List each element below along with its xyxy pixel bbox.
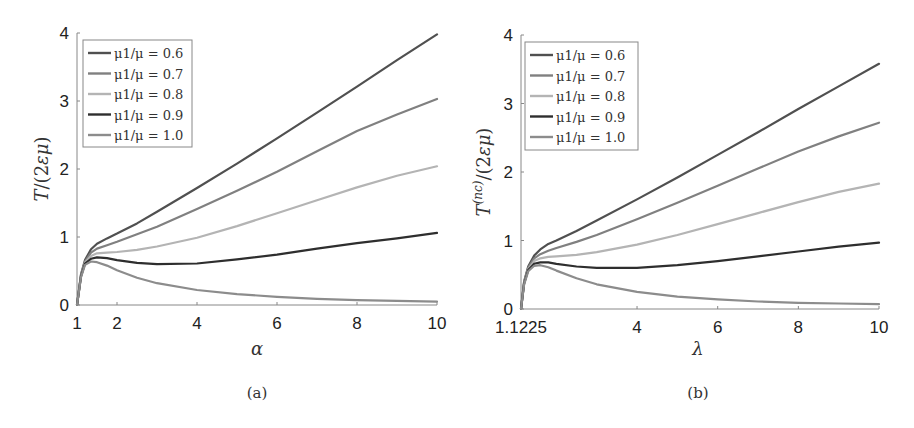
legend: μ1/μ = 0.6μ1/μ = 0.7μ1/μ = 0.8μ1/μ = 0.9… <box>525 42 638 150</box>
panel-b-chart: 012341.122546810 μ1/μ = 0.6μ1/μ = 0.7μ1/… <box>471 26 888 402</box>
panel-caption: (b) <box>687 384 708 402</box>
y-axis-label: T(nc)/(2εμ) <box>471 128 494 217</box>
y-tick-label: 2 <box>504 163 513 182</box>
x-tick-label: 6 <box>272 314 281 333</box>
legend-label: μ1/μ = 0.9 <box>556 110 625 125</box>
x-tick-label: 10 <box>428 314 447 333</box>
x-axis-label: α <box>251 338 263 359</box>
curve-series <box>521 265 879 309</box>
legend-label: μ1/μ = 0.8 <box>114 87 183 102</box>
x-tick-label: 4 <box>192 314 201 333</box>
curve-series <box>521 184 879 309</box>
legend-label: μ1/μ = 1.0 <box>556 130 625 145</box>
y-tick-label: 0 <box>504 300 513 319</box>
x-tick-label: 4 <box>632 318 641 337</box>
curve-series <box>521 123 879 309</box>
svg-text:T(nc)/(2εμ): T(nc)/(2εμ) <box>471 128 494 217</box>
panel-a-chart: 012341246810 μ1/μ = 0.6μ1/μ = 0.7μ1/μ = … <box>31 24 446 402</box>
x-tick-label: 8 <box>794 318 803 337</box>
x-tick-label: 1 <box>72 314 81 333</box>
x-tick-label: 2 <box>112 314 121 333</box>
y-tick-label: 4 <box>60 24 69 43</box>
legend-label: μ1/μ = 0.9 <box>114 108 183 123</box>
y-tick-label: 0 <box>60 296 69 315</box>
legend-label: μ1/μ = 0.7 <box>114 67 183 82</box>
y-tick-label: 1 <box>60 228 69 247</box>
x-tick-label: 10 <box>870 318 889 337</box>
x-tick-label: 8 <box>352 314 361 333</box>
curve-series <box>77 233 437 305</box>
curve-series <box>77 262 437 306</box>
y-axis-label: T/(2εμ) <box>31 137 52 202</box>
legend-label: μ1/μ = 1.0 <box>114 128 183 143</box>
legend-label: μ1/μ = 0.8 <box>556 89 625 104</box>
legend: μ1/μ = 0.6μ1/μ = 0.7μ1/μ = 0.8μ1/μ = 0.9… <box>83 40 192 147</box>
panel-caption: (a) <box>247 384 268 402</box>
legend-label: μ1/μ = 0.6 <box>114 46 183 61</box>
y-tick-label: 3 <box>504 95 513 114</box>
y-tick-label: 4 <box>504 26 513 45</box>
x-tick-label: 6 <box>713 318 722 337</box>
y-tick-label: 2 <box>60 160 69 179</box>
svg-text:T/(2εμ): T/(2εμ) <box>31 137 52 202</box>
legend-label: μ1/μ = 0.7 <box>556 69 625 84</box>
legend-label: μ1/μ = 0.6 <box>556 48 625 63</box>
y-tick-label: 1 <box>504 232 513 251</box>
x-axis-label: λ <box>691 338 703 359</box>
y-tick-label: 3 <box>60 92 69 111</box>
x-tick-label: 1.1225 <box>495 318 547 337</box>
figure: 012341246810 μ1/μ = 0.6μ1/μ = 0.7μ1/μ = … <box>0 0 914 428</box>
